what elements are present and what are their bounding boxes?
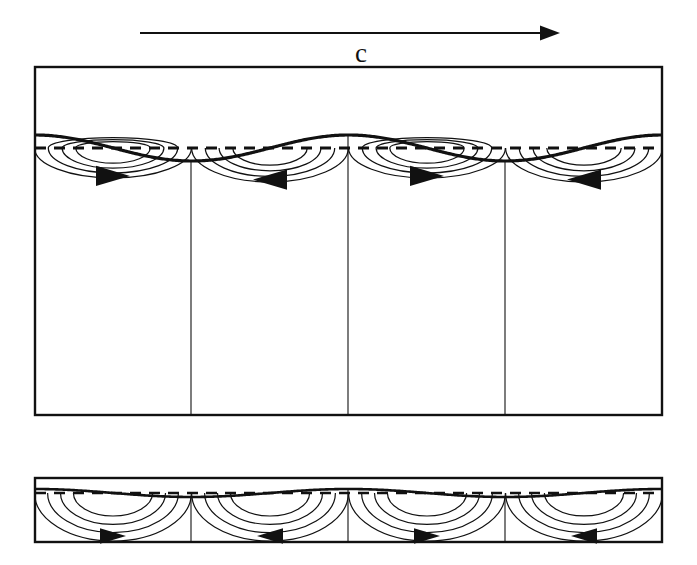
orbit-arc-shallow bbox=[532, 493, 637, 524]
orbit-arc-shallow bbox=[230, 493, 309, 516]
orbit-arc-lower bbox=[205, 148, 334, 176]
orbit-arc-lower bbox=[48, 148, 177, 173]
wave-orbital-diagram bbox=[0, 0, 697, 565]
orbit-arc-lower bbox=[533, 148, 635, 171]
orbit-arc-shallow bbox=[218, 493, 323, 524]
orbit-direction-arrow-left bbox=[567, 169, 601, 189]
orbit-arc-shallow bbox=[205, 493, 336, 533]
orbit-arc-lower bbox=[519, 148, 648, 176]
orbit-direction-arrow-right bbox=[96, 166, 130, 186]
orbit-arc-lower bbox=[547, 148, 621, 165]
celerity-arrow-head bbox=[540, 26, 560, 41]
orbit-direction-arrow-right bbox=[410, 166, 444, 186]
orbit-arc-lower bbox=[233, 148, 307, 165]
orbit-arc-shallow bbox=[362, 493, 493, 533]
celerity-label: c bbox=[355, 40, 367, 67]
orbit-arc-shallow bbox=[375, 493, 480, 524]
orbit-direction-arrow-left bbox=[253, 169, 287, 189]
orbit-arc-shallow bbox=[73, 493, 152, 516]
orbit-arc-shallow bbox=[48, 493, 179, 533]
figure-canvas: c bbox=[0, 0, 697, 565]
orbit-arc-shallow bbox=[61, 493, 166, 524]
orbit-arc-shallow bbox=[387, 493, 466, 516]
orbit-arc-lower bbox=[362, 148, 491, 173]
orbit-arc-shallow bbox=[544, 493, 623, 516]
orbit-arc-shallow bbox=[519, 493, 650, 533]
orbit-arc-lower bbox=[219, 148, 321, 171]
